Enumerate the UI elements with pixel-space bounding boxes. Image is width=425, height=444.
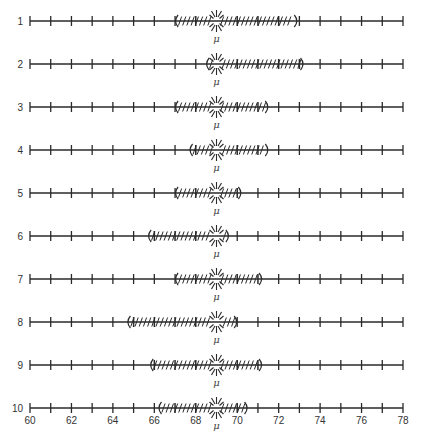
x-tick-label: 62 bbox=[66, 415, 78, 426]
row-label: 4 bbox=[17, 145, 23, 156]
mu-label: μ bbox=[213, 33, 220, 44]
interval-row: 9μ bbox=[17, 354, 403, 388]
mu-label: μ bbox=[213, 205, 220, 216]
interval-row: 1μ bbox=[17, 10, 403, 44]
mu-label: μ bbox=[213, 76, 220, 87]
confidence-interval-diagram: 1μ2μ3μ4μ5μ6μ7μ8μ9μ10μ 606264666870727476… bbox=[0, 0, 425, 444]
x-tick-label: 78 bbox=[397, 415, 409, 426]
interval-row: 2μ bbox=[17, 53, 403, 87]
mu-label: μ bbox=[213, 248, 220, 259]
mu-label: μ bbox=[213, 377, 220, 388]
interval-row: 4μ bbox=[17, 139, 403, 173]
mu-label: μ bbox=[213, 162, 220, 173]
row-label: 7 bbox=[17, 274, 23, 285]
mu-label: μ bbox=[213, 291, 220, 302]
interval-row: 3μ bbox=[17, 96, 403, 130]
interval-row: 8μ bbox=[17, 311, 403, 345]
x-tick-label: 72 bbox=[273, 415, 285, 426]
row-label: 2 bbox=[17, 59, 23, 70]
x-tick-label: 70 bbox=[232, 415, 244, 426]
mu-label: μ bbox=[213, 420, 220, 431]
interval-row: 5μ bbox=[17, 182, 403, 216]
x-tick-label: 68 bbox=[190, 415, 202, 426]
row-label: 6 bbox=[17, 231, 23, 242]
row-label: 8 bbox=[17, 317, 23, 328]
row-label: 1 bbox=[17, 16, 23, 27]
mu-label: μ bbox=[213, 334, 220, 345]
x-tick-label: 66 bbox=[149, 415, 161, 426]
row-label: 3 bbox=[17, 102, 23, 113]
x-tick-label: 76 bbox=[356, 415, 368, 426]
x-tick-label: 74 bbox=[315, 415, 327, 426]
interval-row: 6μ bbox=[17, 225, 403, 259]
x-tick-label: 60 bbox=[24, 415, 36, 426]
row-label: 9 bbox=[17, 360, 23, 371]
mu-label: μ bbox=[213, 119, 220, 130]
row-label: 5 bbox=[17, 188, 23, 199]
x-tick-label: 64 bbox=[107, 415, 119, 426]
row-label: 10 bbox=[12, 403, 24, 414]
interval-rows: 1μ2μ3μ4μ5μ6μ7μ8μ9μ10μ bbox=[12, 10, 403, 431]
interval-row: 7μ bbox=[17, 268, 403, 302]
